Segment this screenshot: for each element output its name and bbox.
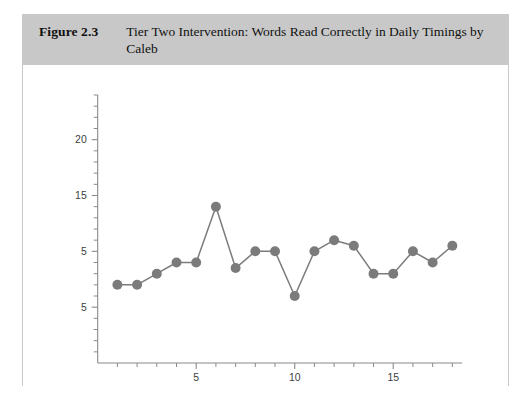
line-chart: 551520 51015 1: 72: 73: 84: 95: 96: 147:…	[23, 65, 508, 386]
data-point: 11: 10	[309, 246, 319, 256]
figure-number: Figure 2.3	[39, 23, 98, 40]
x-axis: 51015	[98, 363, 462, 383]
chart-plot-area: 551520 51015 1: 72: 73: 84: 95: 96: 147:…	[23, 65, 508, 386]
data-point: 17: 9	[428, 258, 438, 268]
x-tick-label: 15	[387, 372, 399, 383]
data-point: 5: 9	[191, 258, 201, 268]
figure-header: Figure 2.3 Tier Two Intervention: Words …	[23, 15, 508, 65]
data-point: 3: 8	[152, 269, 162, 279]
data-point: 4: 9	[172, 258, 182, 268]
data-point: 9: 10	[270, 246, 280, 256]
data-point: 18: 10.5	[447, 241, 457, 251]
y-tick-label: 20	[75, 134, 87, 145]
data-point: 10: 6	[290, 291, 300, 301]
data-point: 2: 7	[132, 280, 142, 290]
data-point: 16: 10	[408, 246, 418, 256]
y-tick-label: 5	[81, 302, 87, 313]
data-point: 14: 8	[369, 269, 379, 279]
y-tick-label: 5	[81, 246, 87, 257]
data-point: 7: 8.5	[231, 263, 241, 273]
data-point: 15: 8	[388, 269, 398, 279]
data-point: 13: 10.5	[349, 241, 359, 251]
data-point: 12: 11	[329, 235, 339, 245]
y-axis: 551520	[75, 95, 98, 363]
series-line	[117, 207, 452, 296]
x-tick-label: 10	[289, 372, 301, 383]
data-point: 1: 7	[112, 280, 122, 290]
data-point: 8: 10	[250, 246, 260, 256]
figure-title: Tier Two Intervention: Words Read Correc…	[126, 23, 494, 58]
figure-card: Figure 2.3 Tier Two Intervention: Words …	[22, 14, 509, 386]
y-tick-label: 15	[75, 190, 87, 201]
data-point: 6: 14	[211, 202, 221, 212]
series-points: 1: 72: 73: 84: 95: 96: 147: 8.58: 109: 1…	[112, 202, 457, 301]
x-tick-label: 5	[193, 372, 199, 383]
